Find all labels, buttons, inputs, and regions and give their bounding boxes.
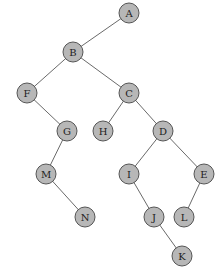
node-label: N	[81, 212, 90, 223]
tree-node-d: D	[153, 121, 173, 141]
tree-node-l: L	[174, 207, 194, 227]
nodes-layer: ABFCGHDMIENJLK	[17, 3, 214, 266]
tree-node-b: B	[63, 42, 83, 62]
node-label: A	[124, 8, 133, 19]
node-label: F	[24, 88, 31, 99]
node-label: J	[151, 212, 156, 223]
tree-node-c: C	[119, 83, 139, 103]
node-label: C	[125, 88, 133, 99]
tree-node-e: E	[194, 164, 214, 184]
tree-node-a: A	[119, 3, 139, 23]
node-label: H	[99, 126, 108, 137]
tree-node-m: M	[36, 164, 56, 184]
tree-node-g: G	[57, 121, 77, 141]
tree-node-f: F	[17, 83, 37, 103]
tree-node-n: N	[75, 207, 95, 227]
node-label: L	[181, 212, 188, 223]
tree-node-i: I	[119, 164, 139, 184]
node-label: E	[200, 169, 207, 180]
tree-node-j: J	[144, 207, 164, 227]
node-label: G	[63, 126, 71, 137]
tree-node-k: K	[172, 246, 192, 266]
node-label: D	[159, 126, 167, 137]
node-label: M	[41, 169, 51, 180]
tree-diagram: ABFCGHDMIENJLK	[0, 0, 221, 276]
node-label: I	[127, 169, 131, 180]
tree-node-h: H	[93, 121, 113, 141]
node-label: K	[178, 251, 186, 262]
node-label: B	[69, 47, 76, 58]
